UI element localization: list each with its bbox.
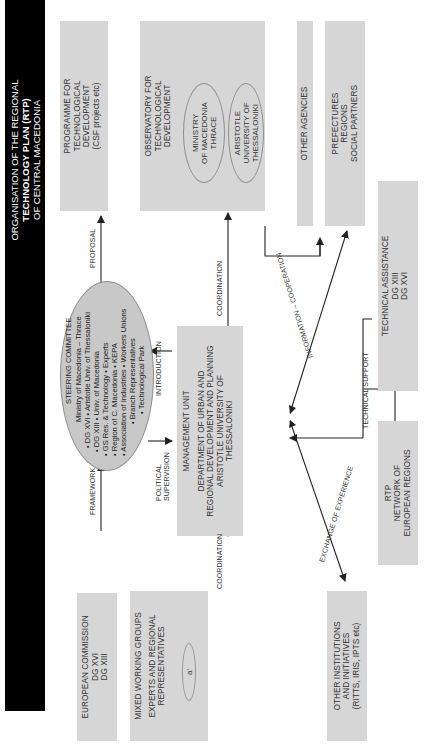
framework-label: FRAMEWORK [89, 468, 96, 515]
programme-box: PROGRAMME FOR TECHNOLOGICAL DEVELOPMENT … [60, 21, 108, 211]
group-a-label: a' [185, 669, 194, 675]
supervision-line: SUPERVISION [163, 452, 171, 501]
steering-member: • Region of C. Macedonia • KEPA [110, 343, 119, 456]
political-supervision-label: POLITICAL SUPERVISION [155, 452, 171, 501]
european-commission-box: EUROPEAN COMMISSION DG XVI DG XIII [77, 593, 117, 741]
rtp-network-box: RTP NETWORK OF EUROPEAN REGIONS [378, 421, 418, 565]
steering-member: • Association of Industries • Workers Un… [119, 309, 128, 456]
ministry-line: MINISTRY [191, 102, 200, 164]
introduction-label: INTRODUCTION [155, 341, 162, 396]
steering-member: • DG XVI • Aristotle Univ. of Thessaloni… [83, 312, 92, 448]
steering-member: • GS Res. & Technology • Experts [101, 342, 110, 456]
steering-member: • Technological Park [137, 346, 146, 414]
wg-subtitle: REPRESENTATIVES [157, 627, 167, 706]
working-groups-box: MIXED WORKING GROUPS EXPERTS AND REGIONA… [130, 591, 208, 741]
technical-support-label: TECHNICAL SUPPORT [362, 352, 369, 429]
steering-member: • Branch Representatives [128, 338, 137, 424]
steering-member: • DG XIII • Univ. of Macedonia [92, 351, 101, 452]
ta-line: DG XVI [400, 272, 410, 300]
aristotle-line: ARISTOTLE [233, 102, 242, 163]
prefectures-box: PREFECTURES REGIONS SOCIAL PARTNERS [325, 21, 365, 226]
aristotle-line: THESSALONIKI [251, 102, 260, 163]
programme-line: (CSF projects etc) [92, 83, 102, 150]
aristotle-line: UNIVERSITY OF [242, 102, 251, 163]
group-oval-a: a' [182, 643, 196, 701]
oi-line: (RITTS, IRIS, IPTS etc) [352, 623, 362, 710]
aristotle-oval: ARISTOTLE UNIVERSITY OF THESSALONIKI [228, 83, 264, 183]
prefectures-line: SOCIAL PARTNERS [350, 85, 360, 162]
ministry-oval: MINISTRY OF MACEDONIA THRACE [183, 83, 225, 183]
coordination-bottom-label: COORDINATION [216, 534, 223, 589]
rtp-organisation-diagram: ORGANISATION OF THE REGIONAL TECHNOLOGY … [0, 0, 424, 751]
mu-title: MANAGEMENT UNIT [182, 391, 192, 472]
wg-title: MIXED WORKING GROUPS [134, 612, 144, 719]
coordination-top-label: COORDINATION [216, 261, 223, 316]
ec-line: DG XIII [100, 653, 110, 680]
steering-title: STEERING COMMITTEE [64, 318, 73, 405]
ministry-line: OF MACEDONIA [200, 102, 209, 164]
political-line: POLITICAL [155, 452, 163, 501]
proposal-label: PROPOSAL [89, 229, 96, 268]
other-institutions-box: OTHER INSTITUTIONS AND INITIATIVES (RITT… [327, 591, 367, 741]
steering-member: Ministry of Macedonia – Thrace [74, 316, 83, 422]
management-unit-box: MANAGEMENT UNIT DEPARTMENT OF URBAN AND … [177, 326, 243, 536]
other-agencies-label: OTHER AGENCIES [300, 87, 310, 161]
rtp-line: EUROPEAN REGIONS [403, 449, 413, 536]
ministry-line: THRACE [209, 102, 218, 164]
steering-committee-oval: STEERING COMMITTEE Ministry of Macedonia… [60, 281, 154, 471]
observatory-line: DEVELOPMENT [163, 85, 173, 148]
mu-line: THESSALONIKI [225, 401, 235, 461]
technical-assistance-box: TECHNICAL ASSISTANCE DG XIII DG XVI [378, 181, 418, 391]
other-agencies-box: OTHER AGENCIES [297, 21, 313, 226]
